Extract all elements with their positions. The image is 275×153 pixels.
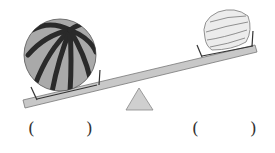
bell-pepper-icon bbox=[204, 10, 250, 50]
answer-right-close: ) bbox=[250, 118, 257, 138]
answer-right-open: ( bbox=[192, 118, 199, 138]
answer-left-close: ) bbox=[86, 118, 93, 138]
watermelon-icon bbox=[24, 19, 96, 92]
fulcrum bbox=[126, 88, 153, 110]
answer-left-open: ( bbox=[28, 118, 35, 138]
seesaw-figure bbox=[0, 0, 275, 153]
